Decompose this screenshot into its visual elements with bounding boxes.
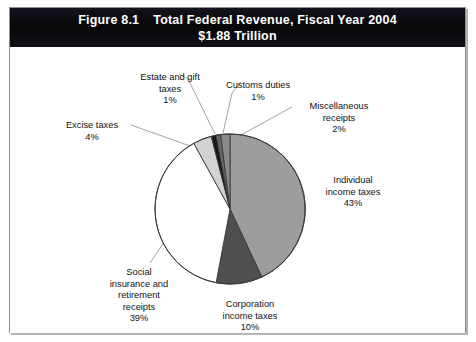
label-customs-pct: 1% — [213, 92, 303, 103]
label-miscellaneous-receipts: Miscellaneous receipts 2% — [293, 90, 385, 147]
label-customs-duties: Customs duties 1% — [213, 69, 303, 115]
figure-title: Total Federal Revenue, Fiscal Year 2004 — [153, 13, 397, 27]
pie-chart-area: Estate and gift taxes 1% Customs duties … — [10, 47, 465, 333]
label-individual-income-taxes: Individual income taxes 43% — [307, 164, 399, 221]
leader-line-excise — [131, 125, 193, 147]
label-social-insurance-receipts: Social insurance and retirement receipts… — [88, 256, 190, 336]
label-corporation-pct: 10% — [201, 322, 299, 333]
label-social-name: Social insurance and retirement receipts — [110, 267, 168, 311]
label-corporation-name: Corporation income taxes — [223, 299, 278, 320]
figure-subtitle: $1.88 Trillion — [198, 28, 277, 44]
label-customs-name: Customs duties — [226, 80, 290, 90]
figure-number: Figure 8.1 — [78, 13, 139, 27]
label-excise-name: Excise taxes — [66, 120, 118, 130]
label-corporation-income-taxes: Corporation income taxes 10% — [201, 288, 299, 342]
label-social-pct: 39% — [88, 313, 190, 324]
label-estate-pct: 1% — [126, 95, 214, 106]
label-excise-taxes: Excise taxes 4% — [52, 109, 132, 155]
label-excise-pct: 4% — [52, 132, 132, 143]
label-estate-and-gift-taxes: Estate and gift taxes 1% — [126, 61, 214, 118]
figure-title-banner: Figure 8.1Total Federal Revenue, Fiscal … — [10, 8, 465, 47]
label-estate-name: Estate and gift taxes — [140, 72, 199, 93]
label-misc-name: Miscellaneous receipts — [310, 101, 369, 122]
label-individual-name: Individual income taxes — [326, 175, 381, 196]
figure-container: Figure 8.1Total Federal Revenue, Fiscal … — [9, 7, 466, 333]
label-misc-pct: 2% — [293, 124, 385, 135]
label-individual-pct: 43% — [307, 198, 399, 209]
figure-title-line: Figure 8.1Total Federal Revenue, Fiscal … — [78, 12, 397, 28]
